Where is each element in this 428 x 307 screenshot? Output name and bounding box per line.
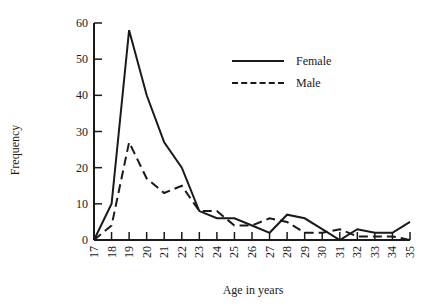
legend-item-male: Male: [232, 72, 331, 94]
x-tick-label: 32: [350, 246, 364, 258]
legend-label-female: Female: [296, 54, 331, 69]
x-tick-label: 31: [333, 246, 347, 258]
y-tick-label: 40: [76, 88, 88, 102]
x-tick-label: 33: [368, 246, 382, 258]
y-tick-label: 60: [76, 16, 88, 30]
x-tick-label: 29: [298, 246, 312, 258]
x-tick-label: 20: [140, 246, 154, 258]
x-tick-label: 23: [192, 246, 206, 258]
x-tick-label: 24: [210, 246, 224, 258]
y-axis-ticks: 0102030405060: [76, 16, 102, 247]
y-axis-label: Frequency: [5, 140, 25, 160]
dashed-line-swatch: [232, 82, 284, 84]
x-tick-label: 35: [403, 246, 417, 258]
y-tick-label: 30: [76, 125, 88, 139]
y-tick-label: 0: [82, 233, 88, 247]
x-tick-label: 17: [87, 246, 101, 258]
x-tick-label: 21: [157, 246, 171, 258]
x-tick-label: 34: [385, 246, 399, 258]
x-tick-label: 26: [245, 246, 259, 258]
x-tick-label: 27: [263, 246, 277, 258]
x-tick-label: 28: [280, 246, 294, 258]
y-tick-label: 10: [76, 197, 88, 211]
solid-line-swatch: [232, 60, 284, 62]
x-axis-label: Age in years: [0, 283, 428, 298]
x-tick-label: 22: [175, 246, 189, 258]
x-tick-label: 30: [315, 246, 329, 258]
legend-label-male: Male: [296, 76, 321, 91]
line-chart: 0102030405060 17181920212223242526272829…: [0, 0, 428, 307]
legend: Female Male: [232, 50, 331, 94]
y-axis-label-text: Frequency: [8, 125, 23, 176]
x-tick-label: 18: [105, 246, 119, 258]
x-tick-label: 19: [122, 246, 136, 258]
legend-item-female: Female: [232, 50, 331, 72]
x-tick-label: 25: [227, 246, 241, 258]
y-tick-label: 50: [76, 52, 88, 66]
y-tick-label: 20: [76, 161, 88, 175]
